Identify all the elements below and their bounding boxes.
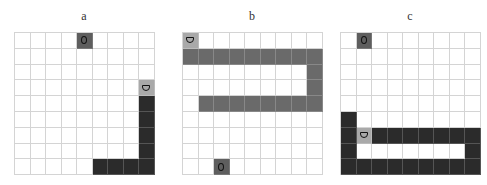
grid-cell [307,33,323,49]
snake-body-cell [108,159,124,175]
snake-body-cell [139,144,155,160]
grid-cell [341,80,357,96]
snake-body-cell [372,159,388,175]
snake-body-cell [307,80,323,96]
grid-cell [419,80,435,96]
grid-cell [388,80,404,96]
snake-body-cell [419,128,435,144]
grid-cell [419,49,435,65]
grid-cell [15,144,31,160]
snake-body-cell [124,159,140,175]
grid-cell [388,144,404,160]
grid-cell [276,159,292,175]
grid-cell [388,33,404,49]
grid-cell [183,96,199,112]
grid-cell [372,65,388,81]
snake-grid [182,32,323,175]
grid-cell [450,49,466,65]
grid-cell [419,33,435,49]
grid-cell [465,49,481,65]
grid-cell [199,159,215,175]
snake-body-cell [465,159,481,175]
snake-body-cell [292,96,308,112]
grid-cell [261,80,277,96]
grid-cell [46,80,62,96]
snake-body-cell [450,128,466,144]
panel-label: c [340,9,480,24]
grid-cell [357,112,373,128]
snake-body-cell [276,96,292,112]
grid-cell [341,96,357,112]
grid-cell [31,144,47,160]
grid-cell [292,112,308,128]
grid-cell [292,128,308,144]
grid-cell [62,80,78,96]
snake-body-cell [341,159,357,175]
snake-body-cell [245,96,261,112]
grid-cell [261,128,277,144]
snake-body-cell [419,159,435,175]
grid-cell [77,65,93,81]
panel-label: a [14,9,154,24]
grid-cell [419,65,435,81]
grid-cell [46,112,62,128]
grid-cell [77,80,93,96]
grid-cell [93,80,109,96]
grid-cell [77,144,93,160]
grid-cell [108,96,124,112]
snake-body-cell [341,128,357,144]
snake-head-cell [139,80,155,96]
food-icon [81,36,87,44]
grid-cell [62,112,78,128]
grid-cell [465,112,481,128]
grid-cell [108,144,124,160]
grid-cell [214,128,230,144]
grid-cell [46,96,62,112]
grid-cell [46,65,62,81]
grid-cell [77,96,93,112]
grid-cell [183,128,199,144]
grid-cell [139,65,155,81]
snake-body-cell [139,112,155,128]
grid-cell [93,65,109,81]
grid-cell [139,49,155,65]
snake-body-cell [292,49,308,65]
grid-cell [199,112,215,128]
grid-cell [245,33,261,49]
grid-cell [15,33,31,49]
snake-head-icon [360,132,368,138]
grid-cell [245,65,261,81]
grid-cell [108,128,124,144]
grid-cell [230,159,246,175]
snake-body-cell [261,49,277,65]
grid-cell [15,65,31,81]
grid-cell [15,80,31,96]
grid-cell [93,96,109,112]
snake-body-cell [388,128,404,144]
grid-cell [15,96,31,112]
food-cell [357,33,373,49]
grid-cell [230,33,246,49]
food-icon [218,163,224,171]
grid-cell [434,65,450,81]
grid-cell [62,96,78,112]
grid-cell [214,144,230,160]
grid-cell [199,80,215,96]
grid-cell [46,128,62,144]
grid-cell [434,96,450,112]
snake-body-cell [357,159,373,175]
snake-body-cell [307,65,323,81]
grid-cell [93,144,109,160]
grid-cell [15,159,31,175]
grid-cell [124,144,140,160]
grid-cell [93,128,109,144]
grid-cell [77,49,93,65]
snake-head-cell [183,33,199,49]
grid-cell [276,144,292,160]
snake-body-cell [434,159,450,175]
grid-cell [62,65,78,81]
grid-cell [230,112,246,128]
grid-cell [245,80,261,96]
grid-cell [372,49,388,65]
grid-cell [372,112,388,128]
